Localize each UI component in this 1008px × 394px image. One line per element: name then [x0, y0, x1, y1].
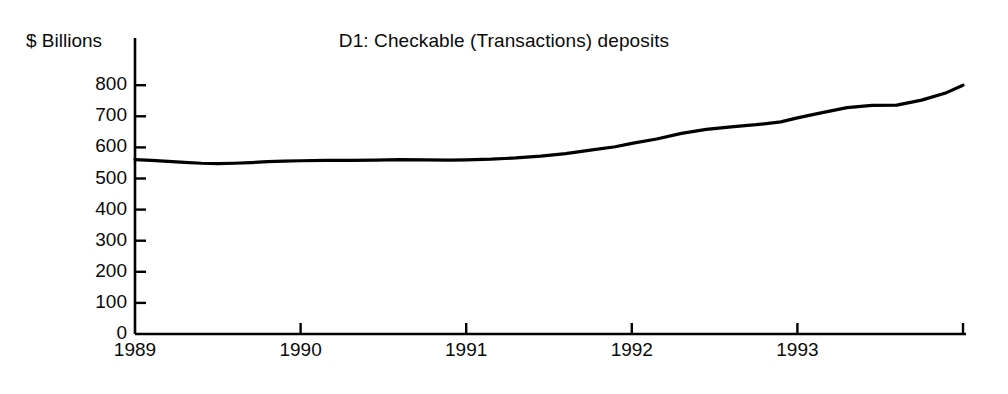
x-axis-tick-label: 1989 — [90, 340, 180, 359]
y-axis-tick-label: 500 — [53, 168, 127, 187]
axis-lines — [135, 38, 966, 334]
y-axis-tick-label: 100 — [53, 292, 127, 311]
x-axis-ticks — [301, 323, 963, 334]
x-axis-tick-label: 1990 — [256, 340, 346, 359]
x-axis-tick-label: 1993 — [752, 340, 842, 359]
plot-area — [0, 0, 1008, 394]
x-axis-tick-label: 1992 — [587, 340, 677, 359]
data-series-line — [135, 85, 963, 163]
y-axis-tick-label: 700 — [53, 105, 127, 124]
x-axis-tick-label: 1991 — [421, 340, 511, 359]
y-axis-tick-label: 400 — [53, 199, 127, 218]
chart-figure: $ Billions D1: Checkable (Transactions) … — [0, 0, 1008, 394]
y-axis-tick-label: 800 — [53, 74, 127, 93]
y-axis-tick-label: 300 — [53, 230, 127, 249]
y-axis-tick-label: 200 — [53, 261, 127, 280]
y-axis-tick-label: 600 — [53, 136, 127, 155]
y-axis-ticks — [135, 85, 146, 303]
